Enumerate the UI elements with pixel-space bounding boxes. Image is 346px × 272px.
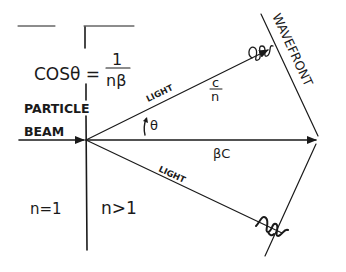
formula-lhs: COSθ = — [34, 64, 100, 84]
particle-speed-label: βC — [213, 146, 230, 161]
medium-left-label: n=1 — [30, 200, 62, 218]
speed-light-numerator: c — [212, 75, 219, 90]
wave-squiggle-lower-icon — [256, 217, 288, 236]
formula-denominator: nβ — [106, 71, 126, 90]
wavefront-label: WAVEFRONT — [269, 11, 316, 89]
light-ray-lower — [86, 140, 282, 233]
particle-label: PARTICLE — [24, 101, 90, 116]
light-label-upper: LIGHT — [144, 82, 174, 104]
wavefront-line-lower — [265, 144, 316, 256]
speed-light-denominator: n — [211, 89, 219, 104]
cherenkov-radiation-diagram: COSθ = 1 nβ PARTICLE BEAM LIGHT θ c n βC… — [0, 0, 346, 272]
light-label-lower: LIGHT — [157, 164, 187, 185]
beam-label: BEAM — [24, 124, 64, 139]
medium-right-label: n>1 — [101, 198, 137, 218]
formula-numerator: 1 — [112, 50, 122, 69]
theta-label: θ — [150, 118, 158, 133]
interface-line — [86, 116, 87, 250]
